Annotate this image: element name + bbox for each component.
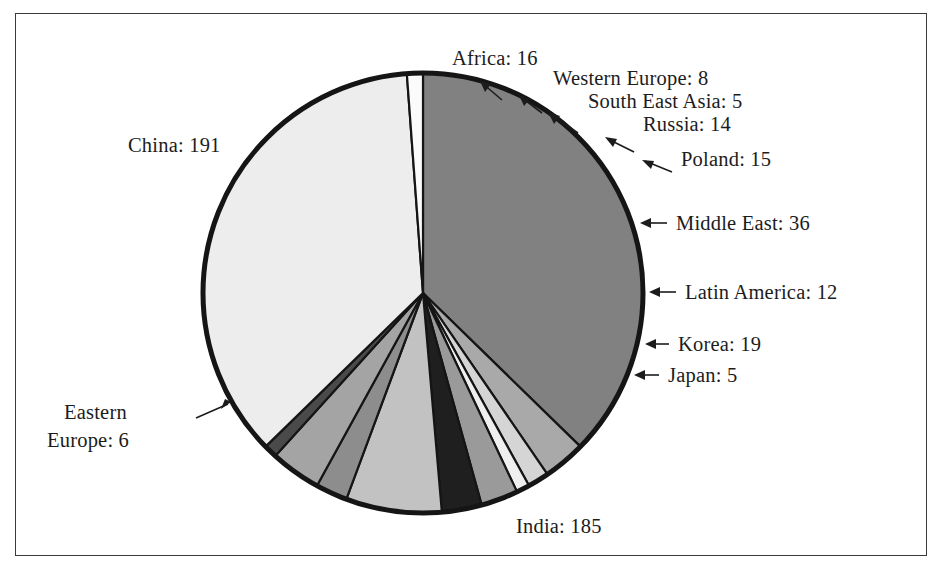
label-eastern-europe-line1: Eastern [64, 401, 127, 423]
poland-arrow-head [642, 160, 654, 169]
label-japan: Japan: 5 [668, 364, 737, 387]
label-latin-america: Latin America: 12 [685, 281, 838, 303]
label-africa: Africa: 16 [452, 47, 538, 69]
pie-chart-figure: Africa: 16 Western Europe: 8 South East … [0, 0, 944, 571]
japan-arrow-head [634, 370, 645, 380]
korea-arrow-head [645, 339, 656, 349]
label-western-europe: Western Europe: 8 [553, 67, 708, 90]
latin-america-arrow-head [649, 287, 660, 297]
pie-chart: Africa: 16 Western Europe: 8 South East … [0, 0, 944, 571]
middle-east-arrow-head [640, 218, 651, 228]
label-russia: Russia: 14 [643, 113, 731, 135]
label-middle-east: Middle East: 36 [676, 212, 810, 234]
russia-arrow-head [605, 137, 617, 147]
label-china: China: 191 [128, 134, 221, 156]
label-korea: Korea: 19 [678, 333, 761, 355]
label-india: India: 185 [516, 515, 602, 537]
label-eastern-europe-line2: Europe: 6 [47, 429, 129, 452]
label-south-east-asia: South East Asia: 5 [588, 90, 743, 112]
label-poland: Poland: 15 [681, 148, 771, 170]
